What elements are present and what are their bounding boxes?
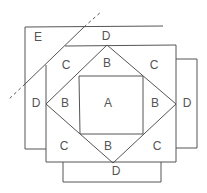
label-c-bottom-left: C xyxy=(60,139,69,153)
quilt-diagram: A B B B B C C C C D D D D E xyxy=(0,0,207,193)
cut-line-lower-dashed xyxy=(8,84,25,100)
left-d-strip xyxy=(25,84,46,149)
label-b-top: B xyxy=(103,56,111,70)
label-e: E xyxy=(34,30,42,44)
label-c-top-right: C xyxy=(150,58,159,72)
label-c-bottom-right: C xyxy=(153,139,162,153)
label-d-right: D xyxy=(183,96,192,110)
label-d-top: D xyxy=(102,29,111,43)
label-a: A xyxy=(104,96,112,110)
cut-line-upper-dashed xyxy=(84,11,102,27)
label-d-left: D xyxy=(32,96,41,110)
label-b-right: B xyxy=(151,96,159,110)
diagram-svg: A B B B B C C C C D D D D E xyxy=(0,0,207,193)
label-b-bottom: B xyxy=(104,139,112,153)
label-b-left: B xyxy=(61,96,69,110)
label-d-bottom: D xyxy=(112,164,121,178)
label-c-top-left: C xyxy=(62,58,71,72)
